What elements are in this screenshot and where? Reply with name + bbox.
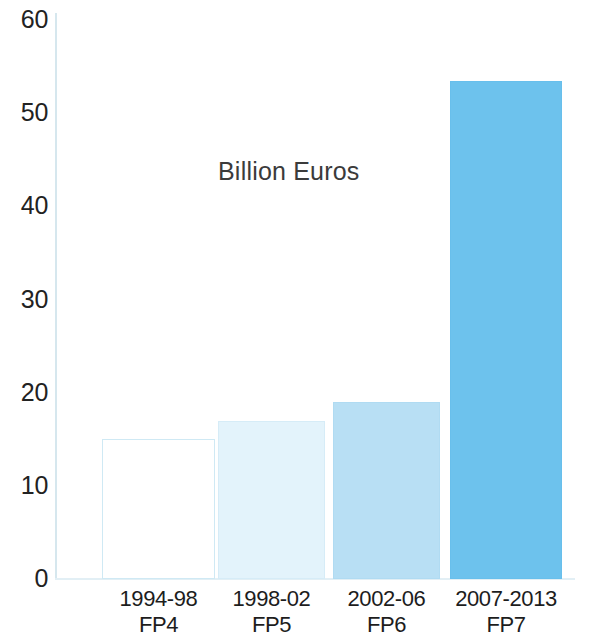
y-axis-tick-label: 20 bbox=[2, 380, 48, 405]
x-axis-label-programme: FP7 bbox=[436, 612, 576, 637]
x-axis-label-programme: FP6 bbox=[319, 612, 454, 637]
bar-fp6 bbox=[333, 402, 440, 579]
x-axis-label-period: 2002-06 bbox=[348, 586, 426, 611]
x-axis-label-fp6: 2002-06FP6 bbox=[319, 586, 454, 637]
bar-fp5 bbox=[218, 421, 325, 579]
x-axis-label-period: 1998-02 bbox=[233, 586, 311, 611]
x-axis-label-period: 1994-98 bbox=[120, 586, 198, 611]
y-axis-tick-label: 0 bbox=[2, 566, 48, 591]
y-axis-tick-label: 60 bbox=[2, 7, 48, 32]
chart-title: Billion Euros bbox=[218, 157, 360, 185]
x-axis-label-fp7: 2007-2013FP7 bbox=[436, 586, 576, 637]
y-axis-tick-label: 10 bbox=[2, 473, 48, 498]
x-axis-label-period: 2007-2013 bbox=[455, 586, 557, 611]
y-axis-tick-label: 50 bbox=[2, 100, 48, 125]
y-axis-tick-label: 30 bbox=[2, 287, 48, 312]
bar-chart: 0102030405060 Billion Euros 1994-98FP419… bbox=[0, 0, 598, 637]
bar-fp7 bbox=[450, 81, 562, 579]
bar-fp4 bbox=[102, 439, 215, 579]
y-axis-tick-label: 40 bbox=[2, 193, 48, 218]
plot-area: Billion Euros bbox=[56, 13, 598, 579]
